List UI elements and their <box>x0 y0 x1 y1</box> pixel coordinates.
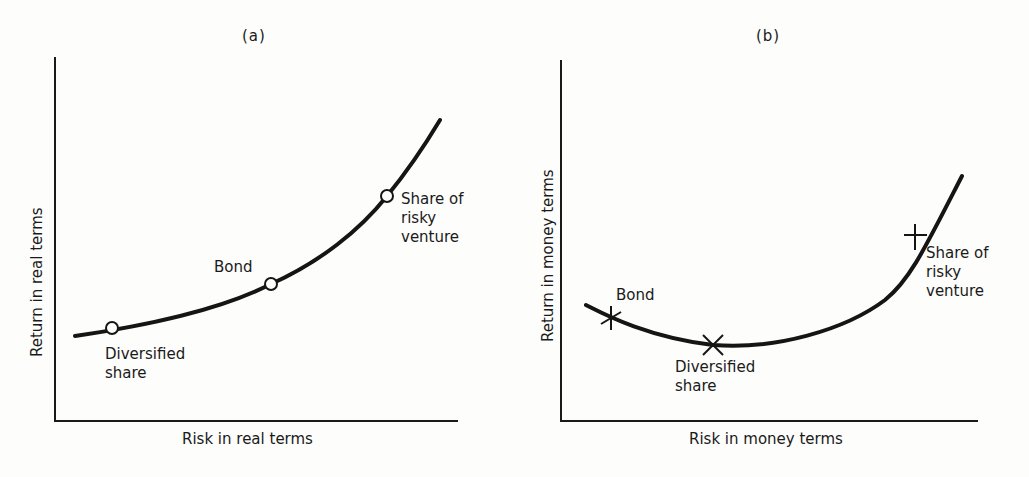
point-label-bond: Bond <box>616 286 655 305</box>
point-label-bond: Bond <box>214 258 253 277</box>
chart-panel-b: (b) Return in money terms Risk in money … <box>515 0 1029 477</box>
point-label-diversified-share: Diversified share <box>105 345 185 383</box>
risk-return-curve <box>586 176 962 346</box>
chart-b-plot <box>515 0 1029 477</box>
circle-marker-risky-venture <box>381 190 393 202</box>
point-label-diversified-share: Diversified share <box>675 358 755 396</box>
circle-marker-bond <box>265 278 277 290</box>
risk-return-curve <box>75 120 440 336</box>
point-label-risky-venture: Share of risky venture <box>926 244 989 301</box>
panel-title: (a) <box>242 27 266 45</box>
circle-marker-diversified-share <box>106 322 118 334</box>
y-axis-label: Return in money terms <box>539 169 557 342</box>
x-axis-label: Risk in real terms <box>182 430 313 448</box>
panel-title: (b) <box>756 27 780 45</box>
chart-panel-a: (a) Return in real terms Risk in real te… <box>0 0 515 477</box>
y-axis-label: Return in real terms <box>28 207 46 357</box>
x-axis-label: Risk in money terms <box>689 430 843 448</box>
point-label-risky-venture: Share of risky venture <box>401 190 464 247</box>
